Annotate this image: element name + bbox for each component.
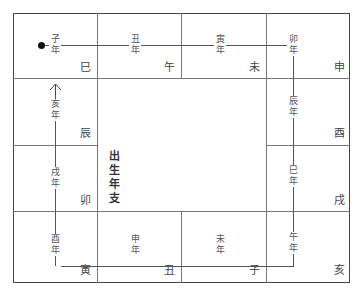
year-label-top: 子 xyxy=(49,34,61,45)
cell-branch-xu: 戌 xyxy=(334,195,345,206)
year-label-bottom: 年 xyxy=(214,45,226,56)
year-label-top: 丑 xyxy=(129,34,141,45)
grid-line xyxy=(266,13,267,283)
year-label-top: 午 xyxy=(287,232,299,243)
year-label-top: 亥 xyxy=(49,99,61,110)
year-label-bottom: 年 xyxy=(129,245,141,256)
year-label-top: 酉 xyxy=(49,234,61,245)
cell-branch-wu: 午 xyxy=(164,62,175,73)
grid-line xyxy=(97,78,98,283)
grid-line xyxy=(181,211,182,283)
year-label-top: 申 xyxy=(129,234,141,245)
grid-line xyxy=(13,78,350,79)
cell-branch-wei: 未 xyxy=(249,62,260,73)
year-label-top: 戌 xyxy=(49,167,61,178)
year-label-si: 巳 年 xyxy=(287,165,299,187)
year-label-yin: 寅 年 xyxy=(214,34,226,56)
year-label-bottom: 年 xyxy=(214,245,226,256)
center-char: 年 xyxy=(107,178,121,192)
cell-branch-hai: 亥 xyxy=(334,265,345,276)
year-label-wei: 未 年 xyxy=(214,234,226,256)
center-char: 支 xyxy=(107,192,121,206)
year-label-mao: 卯 年 xyxy=(287,34,299,56)
grid-line xyxy=(266,145,350,146)
year-label-wu: 午 年 xyxy=(287,232,299,254)
path-segment xyxy=(82,45,292,46)
cell-branch-mao: 卯 xyxy=(80,195,91,206)
center-char: 出 xyxy=(107,150,121,164)
year-label-chen: 辰 年 xyxy=(287,96,299,118)
year-label-bottom: 年 xyxy=(49,110,61,121)
year-label-bottom: 年 xyxy=(287,107,299,118)
year-label-top: 巳 xyxy=(287,165,299,176)
cell-branch-si: 巳 xyxy=(80,62,91,73)
cell-branch-chen: 辰 xyxy=(80,128,91,139)
year-label-top: 辰 xyxy=(287,96,299,107)
year-label-bottom: 年 xyxy=(287,45,299,56)
year-label-bottom: 年 xyxy=(287,176,299,187)
center-label: 出 生 年 支 xyxy=(107,150,121,206)
year-label-bottom: 年 xyxy=(49,178,61,189)
cell-branch-shen: 申 xyxy=(334,62,345,73)
year-label-bottom: 年 xyxy=(49,45,61,56)
year-label-shen: 申 年 xyxy=(129,234,141,256)
arrow-up-icon xyxy=(49,83,62,95)
year-label-top: 未 xyxy=(214,234,226,245)
center-char: 生 xyxy=(107,164,121,178)
year-label-bottom: 年 xyxy=(287,243,299,254)
year-label-chou: 丑 年 xyxy=(129,34,141,56)
year-label-top: 寅 xyxy=(214,34,226,45)
path-segment xyxy=(61,266,293,267)
year-label-bottom: 年 xyxy=(129,45,141,56)
cell-branch-you: 酉 xyxy=(334,128,345,139)
year-label-zi: 子 年 xyxy=(49,34,61,56)
year-label-xu: 戌 年 xyxy=(49,167,61,189)
year-label-hai: 亥 年 xyxy=(49,99,61,121)
year-label-you: 酉 年 xyxy=(49,234,61,256)
grid-line xyxy=(13,211,350,212)
year-label-bottom: 年 xyxy=(49,245,61,256)
start-dot-icon xyxy=(38,42,45,49)
year-label-top: 卯 xyxy=(287,34,299,45)
